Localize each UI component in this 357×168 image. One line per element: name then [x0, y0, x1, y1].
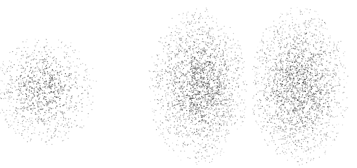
scatter-figure [0, 0, 357, 168]
scatter-plot-canvas [0, 0, 357, 168]
